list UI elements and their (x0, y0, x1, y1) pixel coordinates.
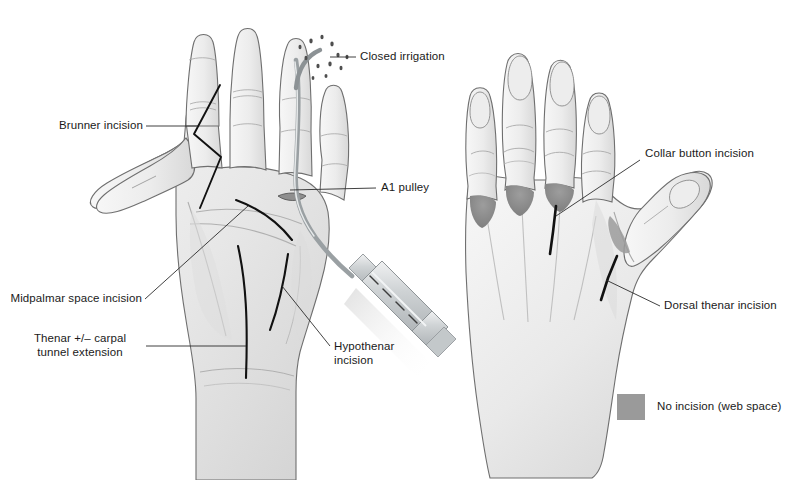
label-hypothenar-incision-line2: incision (334, 354, 373, 368)
label-collar-button-incision: Collar button incision (645, 147, 754, 161)
right-small-nail (588, 96, 610, 134)
label-hypothenar-incision-line1: Hypothenar (334, 340, 394, 354)
label-brunner-incision: Brunner incision (0, 119, 143, 133)
label-midpalmar-space-incision: Midpalmar space incision (0, 292, 142, 306)
label-a1-pulley: A1 pulley (381, 181, 429, 195)
legend-swatch-no-incision (617, 394, 645, 420)
label-thenar-carpal-tunnel-line1: Thenar +/– carpal (18, 332, 142, 346)
legend-label-no-incision: No incision (web space) (657, 400, 781, 414)
right-ring-nail (550, 62, 574, 106)
label-thenar-carpal-tunnel-line2: tunnel extension (18, 346, 142, 360)
label-closed-irrigation: Closed irrigation (360, 50, 445, 64)
right-middle-nail (508, 56, 532, 100)
illustration-figure: Closed irrigation Brunner incision A1 pu… (0, 0, 786, 480)
label-dorsal-thenar-incision: Dorsal thenar incision (664, 299, 777, 313)
right-index-nail (470, 92, 490, 128)
left-small-finger (320, 85, 349, 200)
